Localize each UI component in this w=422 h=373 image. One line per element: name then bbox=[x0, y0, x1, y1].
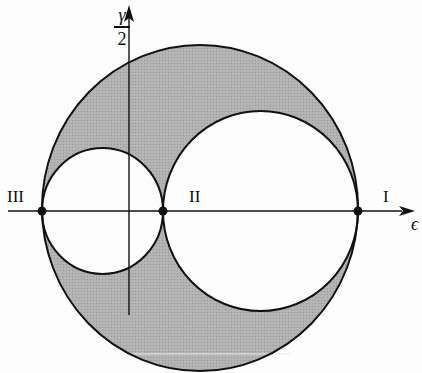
point-I bbox=[354, 207, 363, 216]
shaded-region bbox=[0, 0, 422, 373]
diagram-canvas bbox=[0, 0, 422, 373]
gamma-over-2-label: γ 2 bbox=[113, 6, 131, 48]
label-III: III bbox=[7, 188, 24, 205]
fraction-bar bbox=[114, 26, 130, 28]
mohr-circle-diagram: γ 2 III II I ϵ bbox=[0, 0, 422, 373]
label-II: II bbox=[189, 188, 200, 205]
two-label: 2 bbox=[113, 30, 131, 48]
point-III bbox=[38, 207, 47, 216]
gamma-label: γ bbox=[113, 6, 131, 24]
label-I: I bbox=[383, 188, 389, 205]
epsilon-label: ϵ bbox=[411, 215, 418, 233]
point-II bbox=[159, 207, 168, 216]
